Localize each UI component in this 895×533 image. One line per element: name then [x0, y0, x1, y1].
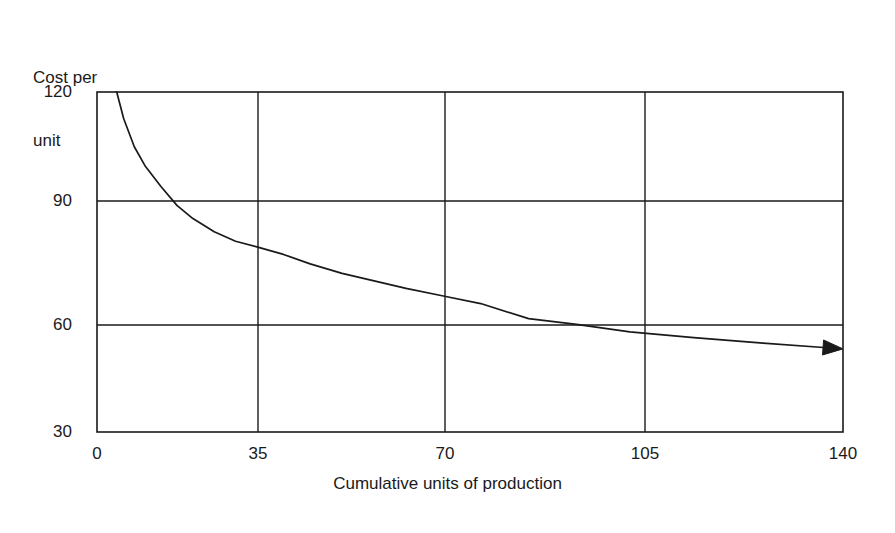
plot-area	[0, 0, 895, 533]
curve-arrowhead	[823, 340, 843, 355]
experience-curve-line	[117, 92, 827, 348]
experience-curve-chart: Cost per unit 120 90 60 30 0 35 70 105 1…	[0, 0, 895, 533]
grid-lines	[97, 92, 843, 432]
plot-border	[97, 92, 843, 432]
